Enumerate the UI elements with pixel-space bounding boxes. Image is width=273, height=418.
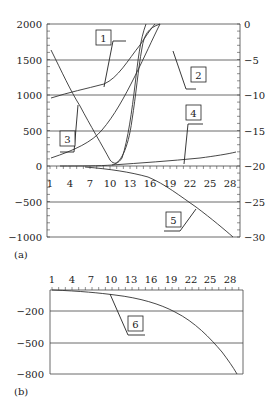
left-tick: 500: [23, 126, 42, 137]
y-tick: −500: [17, 338, 44, 349]
x-tick: 7: [87, 178, 93, 189]
right-tick: −25: [244, 197, 265, 208]
left-tick: −500: [15, 197, 42, 208]
x-tick: 1: [47, 178, 53, 189]
x-tick: 10: [104, 178, 117, 189]
right-tick: −20: [244, 161, 265, 172]
x-tick: 25: [204, 178, 217, 189]
right-tick: −30: [244, 232, 265, 243]
panel-b: 1 4 7 10 13 16 19 22 25 28 −200 −500 −80…: [14, 274, 243, 397]
panel-b-y-tick-labels: −200 −500 −800: [17, 306, 44, 380]
x-tick: 19: [164, 178, 177, 189]
x-tick: 4: [69, 274, 75, 285]
left-tick: 0: [36, 161, 42, 172]
x-tick: 16: [145, 274, 158, 285]
x-tick: 7: [88, 274, 94, 285]
panel-a-callout-leaders: [60, 41, 203, 231]
left-y-tick-labels: 2000 1500 1000 500 0 −500 −1000: [8, 19, 42, 243]
x-tick: 10: [105, 274, 118, 285]
y-tick: −800: [17, 369, 44, 380]
right-tick: 0: [244, 19, 250, 30]
panel-b-ticks: [52, 287, 239, 290]
left-tick: 2000: [17, 19, 42, 30]
x-tick: 19: [165, 274, 178, 285]
right-tick: −5: [244, 55, 259, 66]
panel-a-callouts: 1 2 3 4 5: [60, 30, 206, 227]
right-tick: −10: [244, 90, 265, 101]
x-tick: 25: [204, 274, 217, 285]
x-tick: 28: [224, 178, 237, 189]
x-tick-labels-a: 1 4 7 10 13 16 19 22 25 28: [47, 178, 237, 189]
callout-2: 2: [195, 70, 201, 81]
x-tick: 22: [185, 274, 198, 285]
x-tick: 13: [125, 274, 138, 285]
x-tick: 1: [49, 274, 55, 285]
y-tick: −200: [17, 306, 44, 317]
callout-1: 1: [100, 33, 106, 44]
panel-a: 2000 1500 1000 500 0 −500 −1000 0 −5 −10…: [8, 19, 265, 260]
panel-a-curves: [51, 24, 236, 237]
callout-5: 5: [170, 215, 176, 226]
x-tick: 13: [124, 178, 137, 189]
x-tick: 28: [224, 274, 237, 285]
series-6-line: [52, 290, 237, 374]
panel-a-label: (a): [14, 249, 28, 260]
left-tick: 1500: [17, 55, 42, 66]
right-tick: −15: [244, 126, 265, 137]
x-tick-labels-b: 1 4 7 10 13 16 19 22 25 28: [49, 274, 237, 285]
left-tick: −1000: [8, 232, 42, 243]
x-tick: 4: [67, 178, 73, 189]
figure: 2000 1500 1000 500 0 −500 −1000 0 −5 −10…: [0, 0, 273, 418]
panel-b-gridlines: [50, 290, 243, 374]
series-4-line: [112, 152, 236, 165]
left-tick: 1000: [17, 90, 42, 101]
panel-b-label: (b): [14, 386, 28, 397]
right-y-tick-labels: 0 −5 −10 −15 −20 −25 −30: [244, 19, 265, 243]
callout-3: 3: [64, 134, 70, 145]
x-tick: 22: [184, 178, 197, 189]
callout-4: 4: [190, 108, 196, 119]
callout-6: 6: [132, 319, 138, 330]
